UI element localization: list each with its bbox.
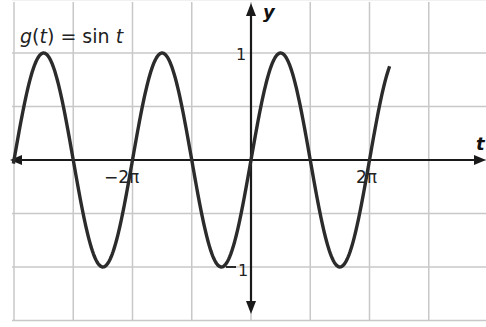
sine-chart: g(t) = sin t y t −2π 2π 1 1	[0, 0, 486, 327]
y-axis-label: y	[263, 1, 276, 22]
y-tick-1: 1	[236, 45, 246, 64]
x-tick-2pi: 2π	[356, 167, 377, 187]
y-tick-neg-1: 1	[226, 261, 248, 280]
down-arrow-icon	[246, 301, 256, 314]
x-axis-label: t	[476, 133, 486, 154]
chart-title: g(t) = sin t	[20, 25, 125, 47]
right-arrow-icon	[474, 155, 486, 165]
x-axis	[10, 155, 486, 165]
svg-text:1: 1	[238, 261, 248, 280]
up-arrow-icon	[246, 3, 256, 16]
x-tick-neg-2pi: −2π	[104, 167, 139, 187]
